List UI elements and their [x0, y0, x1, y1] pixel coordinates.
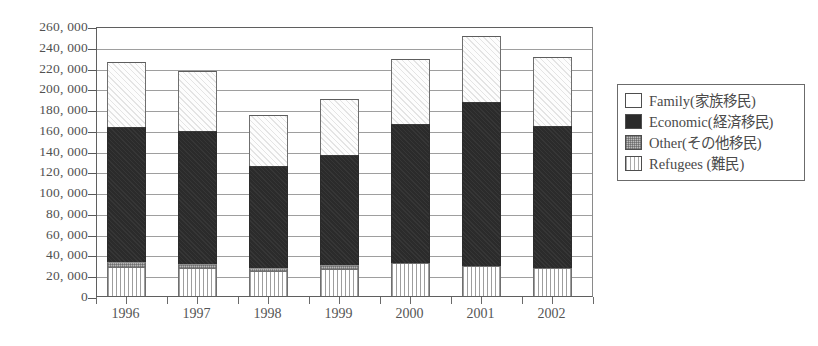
- legend-item-label: Family(家族移民): [649, 93, 756, 109]
- bar-1999: [320, 99, 359, 296]
- bar-segment-other: [320, 265, 359, 269]
- bar-segment-economic: [178, 131, 217, 264]
- y-axis-tick: [88, 70, 97, 71]
- x-axis-tick: [380, 297, 381, 304]
- gridline: [97, 70, 592, 71]
- economic-swatch: [625, 114, 642, 129]
- family-swatch: [625, 93, 642, 108]
- x-axis-label-2001: 2001: [451, 305, 511, 322]
- y-axis-tick: [88, 256, 97, 257]
- x-axis-label-1998: 1998: [238, 305, 298, 322]
- y-axis-tick-label: 0: [81, 290, 88, 303]
- y-axis-tick-label: 100, 000: [39, 186, 88, 199]
- bar-2002: [533, 57, 572, 296]
- bar-segment-other: [249, 268, 288, 271]
- x-axis-label-1999: 1999: [309, 305, 369, 322]
- bar-1997: [178, 71, 217, 296]
- y-axis-tick-label: 80, 000: [46, 207, 88, 220]
- bar-segment-family: [462, 36, 501, 101]
- x-axis-label-1996: 1996: [96, 305, 156, 322]
- bar-segment-family: [320, 99, 359, 155]
- stacked-bar-chart: 260, 000240, 000220, 000200, 000180, 000…: [0, 0, 818, 346]
- x-axis-tick: [339, 297, 340, 304]
- y-axis-tick-label: 40, 000: [46, 248, 88, 261]
- y-axis-tick: [88, 173, 97, 174]
- x-axis-tick: [552, 297, 553, 304]
- y-axis-tick: [88, 49, 97, 50]
- bar-segment-family: [107, 62, 146, 126]
- y-axis-tick-label: 60, 000: [46, 228, 88, 241]
- legend-item: Family(家族移民): [625, 90, 797, 111]
- bar-1998: [249, 115, 288, 296]
- legend-item-label: Refugees (難民): [649, 156, 744, 172]
- y-axis-tick-label: 200, 000: [39, 82, 88, 95]
- bar-segment-other: [178, 264, 217, 268]
- y-axis-tick-label: 160, 000: [39, 124, 88, 137]
- x-axis-tick: [238, 297, 239, 304]
- bar-segment-other: [107, 262, 146, 267]
- y-axis-tick-label: 180, 000: [39, 103, 88, 116]
- legend-item-label: Economic(経済移民): [649, 114, 773, 130]
- x-axis-tick: [593, 297, 594, 304]
- y-axis-tick: [88, 111, 97, 112]
- legend-item: Economic(経済移民): [625, 111, 797, 132]
- bar-1996: [107, 62, 146, 296]
- x-axis-label-2002: 2002: [522, 305, 582, 322]
- y-axis-tick-label: 240, 000: [39, 41, 88, 54]
- y-axis-tick-label: 220, 000: [39, 62, 88, 75]
- y-axis-tick-label: 120, 000: [39, 165, 88, 178]
- gridline: [97, 90, 592, 91]
- plot-area: [96, 27, 593, 297]
- x-axis: 1996199719981999200020012002: [96, 305, 593, 325]
- y-axis: 260, 000240, 000220, 000200, 000180, 000…: [0, 27, 88, 297]
- x-axis-tick: [96, 297, 97, 304]
- bar-segment-economic: [107, 127, 146, 262]
- legend-item-label: Other(その他移民): [649, 135, 762, 151]
- bar-2000: [391, 59, 430, 296]
- y-axis-tick: [88, 132, 97, 133]
- bar-segment-refugees: [178, 268, 217, 296]
- bar-segment-family: [533, 57, 572, 126]
- bar-segment-economic: [533, 126, 572, 268]
- bar-segment-refugees: [107, 267, 146, 296]
- x-axis-label-2000: 2000: [380, 305, 440, 322]
- y-axis-tick-label: 20, 000: [46, 269, 88, 282]
- bar-segment-family: [249, 115, 288, 166]
- x-axis-tick: [167, 297, 168, 304]
- legend-item: Refugees (難民): [625, 153, 797, 174]
- bar-segment-family: [178, 71, 217, 131]
- bar-segment-family: [391, 59, 430, 123]
- bar-segment-economic: [462, 102, 501, 266]
- x-axis-tick: [410, 297, 411, 304]
- refugees-swatch: [625, 156, 642, 171]
- x-axis-tick: [268, 297, 269, 304]
- bar-segment-refugees: [249, 271, 288, 296]
- x-axis-tick: [126, 297, 127, 304]
- bar-segment-economic: [249, 166, 288, 268]
- bar-2001: [462, 36, 501, 296]
- chart-legend: Family(家族移民)Economic(経済移民)Other(その他移民)Re…: [617, 84, 805, 181]
- bar-segment-refugees: [320, 269, 359, 296]
- legend-item: Other(その他移民): [625, 132, 797, 153]
- bar-segment-refugees: [533, 268, 572, 296]
- x-axis-tick: [197, 297, 198, 304]
- x-axis-ticks: [96, 297, 593, 304]
- y-axis-tick-label: 140, 000: [39, 145, 88, 158]
- y-axis-tick: [88, 153, 97, 154]
- x-axis-tick: [451, 297, 452, 304]
- y-axis-tick: [88, 194, 97, 195]
- bar-segment-economic: [391, 124, 430, 263]
- y-axis-tick: [88, 215, 97, 216]
- bar-segment-economic: [320, 155, 359, 265]
- y-axis-tick-label: 260, 000: [39, 20, 88, 33]
- y-axis-tick: [88, 90, 97, 91]
- other-swatch: [625, 135, 642, 150]
- y-axis-tick: [88, 236, 97, 237]
- gridline: [97, 49, 592, 50]
- y-axis-tick: [88, 28, 97, 29]
- y-axis-tick: [88, 277, 97, 278]
- bar-segment-refugees: [391, 263, 430, 296]
- x-axis-tick: [309, 297, 310, 304]
- bar-segment-refugees: [462, 266, 501, 296]
- x-axis-label-1997: 1997: [167, 305, 227, 322]
